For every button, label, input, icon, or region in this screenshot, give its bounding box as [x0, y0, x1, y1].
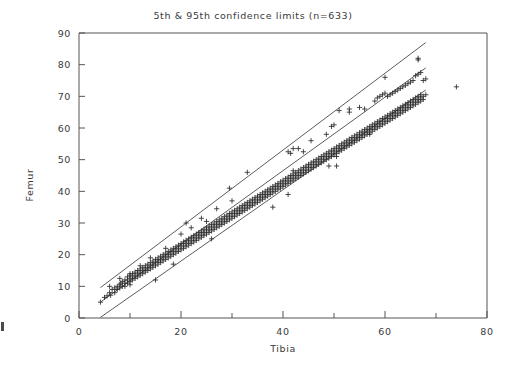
scatter-point-marker — [296, 146, 301, 151]
x-tick-label: 0 — [76, 326, 83, 337]
scatter-point-marker — [324, 132, 329, 137]
chart-title: 5th & 95th confidence limits (n=633) — [153, 10, 352, 21]
scatter-point-marker — [122, 284, 127, 289]
scatter-point-marker — [117, 276, 122, 281]
femur-tibia-scatter-chart: 0102030405060708090020406080 5th & 95th … — [0, 0, 507, 366]
scatter-point-marker — [291, 146, 296, 151]
scatter-point-marker — [163, 246, 168, 251]
fit-and-confidence-lines-group — [100, 43, 425, 318]
scatter-points-group — [98, 56, 459, 305]
x-axis-label: Tibia — [269, 343, 296, 354]
scatter-point-marker — [357, 105, 362, 110]
scatter-point-marker — [347, 106, 352, 111]
y-tick-label: 80 — [58, 59, 71, 70]
scatter-point-marker — [326, 163, 331, 168]
y-tick-label: 20 — [58, 249, 71, 260]
chart-figure: 0102030405060708090020406080 5th & 95th … — [0, 0, 507, 366]
y-tick-label: 60 — [58, 123, 71, 134]
scatter-point-marker — [178, 231, 183, 236]
scatter-point-marker — [245, 170, 250, 175]
scatter-point-marker — [301, 149, 306, 154]
scatter-point-marker — [334, 163, 339, 168]
scatter-point-marker — [382, 75, 387, 80]
y-tick-label: 50 — [58, 154, 71, 165]
upper-95th-confidence-limit — [100, 43, 425, 288]
y-tick-label: 0 — [64, 313, 71, 324]
scatter-point-marker — [229, 198, 234, 203]
scan-edge-artifact — [1, 322, 4, 331]
y-tick-label: 70 — [58, 91, 71, 102]
x-tick-label: 20 — [174, 326, 187, 337]
axis-labels-group: 0102030405060708090020406080 — [58, 28, 494, 338]
scatter-point-marker — [308, 138, 313, 143]
scatter-point-marker — [214, 206, 219, 211]
scatter-point-marker — [171, 262, 176, 267]
y-tick-label: 90 — [58, 28, 71, 39]
scatter-point-marker — [270, 205, 275, 210]
x-tick-label: 40 — [276, 326, 289, 337]
x-tick-label: 80 — [480, 326, 493, 337]
scatter-point-marker — [204, 219, 209, 224]
y-tick-label: 40 — [58, 186, 71, 197]
scatter-point-marker — [148, 255, 153, 260]
scatter-point-marker — [454, 84, 459, 89]
y-tick-label: 30 — [58, 218, 71, 229]
y-axis-label: Femur — [24, 169, 35, 202]
scatter-point-marker — [227, 186, 232, 191]
scatter-point-marker — [107, 284, 112, 289]
scatter-point-marker — [189, 225, 194, 230]
x-tick-label: 60 — [378, 326, 391, 337]
scatter-point-marker — [153, 277, 158, 282]
scatter-point-marker — [199, 216, 204, 221]
scatter-point-marker — [286, 192, 291, 197]
y-tick-label: 10 — [58, 281, 71, 292]
